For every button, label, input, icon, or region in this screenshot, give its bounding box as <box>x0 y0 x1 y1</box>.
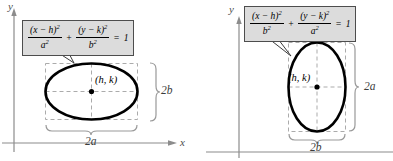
left-eq-den1-exp: 2 <box>46 38 49 45</box>
left-equation-fraction-2: (y − k)2 b2 <box>76 23 109 52</box>
right-eq-den2-exp: 2 <box>315 24 318 31</box>
right-height-brace <box>349 43 359 131</box>
right-eq-num1-exp: 2 <box>278 9 281 16</box>
right-eq-num2-exp: 2 <box>326 9 329 16</box>
left-eq-num1: (x − h) <box>30 25 56 35</box>
right-equation-fraction-2: (y − k)2 a2 <box>298 9 331 38</box>
left-width-brace <box>46 125 137 135</box>
right-eq-den1-exp: 2 <box>268 24 271 31</box>
right-eq-num2: (y − k) <box>300 11 326 21</box>
right-center-point <box>314 84 319 89</box>
left-equation-box: (x − h)2 a2 + (y − k)2 b2 = 1 <box>22 20 134 56</box>
left-height-dimension-label: 2b <box>161 85 173 97</box>
left-eq-equals: = <box>112 33 120 43</box>
right-eq-num1: (x − h) <box>252 11 278 21</box>
left-eq-den2-exp: 2 <box>93 38 96 45</box>
left-eq-num2: (y − k) <box>78 25 104 35</box>
left-center-label: (h, k) <box>95 75 117 86</box>
right-center-label: (h, k) <box>288 73 310 84</box>
right-height-dimension-label: 2a <box>364 81 376 93</box>
left-eq-plus: + <box>65 33 73 43</box>
left-eq-num2-exp: 2 <box>104 23 107 30</box>
right-eq-plus: + <box>287 19 295 29</box>
right-y-axis-label: y <box>229 4 234 15</box>
right-eq-rhs: 1 <box>346 19 351 29</box>
right-y-axis-arrow-icon <box>236 16 241 24</box>
left-eq-num1-exp: 2 <box>56 23 59 30</box>
left-center-point <box>89 89 94 94</box>
left-x-axis-arrow-icon <box>168 140 177 145</box>
right-width-dimension-label: 2b <box>310 142 322 154</box>
right-equation-box: (x − h)2 b2 + (y − k)2 a2 = 1 <box>244 6 356 42</box>
right-eq-equals: = <box>334 19 342 29</box>
left-height-brace <box>150 63 160 121</box>
right-equation-fraction-1: (x − h)2 b2 <box>250 9 284 38</box>
ellipse-figure: y x (x − h)2 a2 + (y − k)2 b2 = 1 (h, k)… <box>0 0 393 161</box>
left-equation-fraction-1: (x − h)2 a2 <box>28 23 62 52</box>
left-eq-rhs: 1 <box>124 33 129 43</box>
left-width-dimension-label: 2a <box>85 136 97 148</box>
left-y-axis-label: y <box>8 1 13 12</box>
left-x-axis-label: x <box>180 137 185 148</box>
